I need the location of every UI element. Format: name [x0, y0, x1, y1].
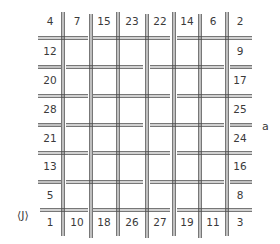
cell-number: 23	[125, 15, 138, 27]
cell-number: 2	[237, 15, 244, 27]
cell-number: 15	[97, 15, 110, 27]
border-numbers: 4715232214621292017282521241316581101826…	[43, 15, 247, 228]
cell-number: 20	[43, 74, 56, 86]
cell-number: 9	[237, 45, 244, 57]
cell-number: 27	[153, 216, 166, 228]
cell-number: 10	[70, 216, 83, 228]
cell-number: 8	[237, 189, 244, 201]
cell-number: 16	[233, 160, 247, 172]
cell-number: 6	[210, 15, 217, 27]
cell-number: 1	[47, 216, 54, 228]
woven-grid-diagram: 4715232214621292017282521241316581101826…	[0, 0, 280, 244]
cell-number: 24	[233, 132, 247, 144]
cell-number: 28	[43, 103, 56, 115]
cell-number: 17	[233, 74, 246, 86]
cell-number: 7	[74, 15, 81, 27]
cell-number: 25	[233, 103, 246, 115]
cell-number: 12	[43, 45, 56, 57]
cell-number: 18	[97, 216, 110, 228]
cell-number: 13	[43, 160, 56, 172]
cell-number: 19	[180, 216, 193, 228]
cell-number: 11	[206, 216, 219, 228]
cell-number: 26	[125, 216, 139, 228]
cell-number: 4	[47, 15, 54, 27]
corner-label-j: ⟨J⟩	[17, 209, 29, 222]
cell-number: 14	[180, 15, 194, 27]
cell-number: 21	[43, 132, 56, 144]
cell-number: 22	[153, 15, 166, 27]
cell-number: 3	[237, 216, 244, 228]
grid-lines	[38, 12, 252, 238]
side-label-a: a	[262, 120, 269, 133]
cell-number: 5	[47, 189, 54, 201]
